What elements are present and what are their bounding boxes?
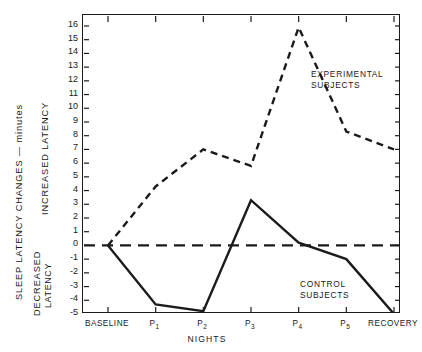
series-label-experimental: EXPERIMENTAL SUBJECTS [311,69,383,91]
series-label-control-line1: CONTROL [300,279,349,290]
x-axis-title: NIGHTS [0,334,414,344]
x-axis-tick-label: RECOVERY [353,320,422,328]
series-label-control-line2: SUBJECTS [300,290,349,301]
series-label-control: CONTROL SUBJECTS [300,279,349,301]
series-label-experimental-line2: SUBJECTS [311,80,383,91]
series-label-experimental-line1: EXPERIMENTAL [311,69,383,80]
